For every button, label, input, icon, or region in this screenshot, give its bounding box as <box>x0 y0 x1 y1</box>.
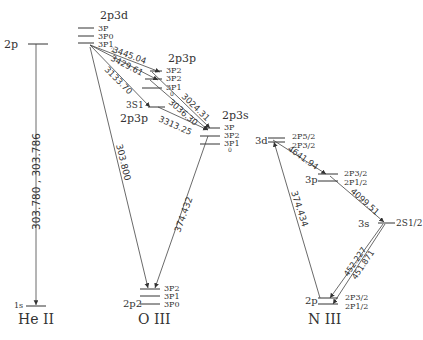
he-ii-group: 2p 303.780 , 303.786 1s He II <box>4 38 54 327</box>
n-3p-term: 2P3/2 <box>344 169 367 178</box>
o-303800-label: 303.800 <box>114 143 133 182</box>
grotrian-diagram: 2p 303.780 , 303.786 1s He II 2p3d 3P 3P… <box>0 0 423 340</box>
he-2p-label: 2p <box>4 38 18 51</box>
o-2p3s-term: 0 <box>228 146 232 153</box>
o-2p3p-upper-config: 2p3p <box>168 52 196 65</box>
he-ii-ion-label: He II <box>18 311 54 327</box>
n-2p-term: 2P1/2 <box>345 302 368 311</box>
n-2p-config: 2p <box>305 295 318 306</box>
o-2p3d-config: 2p3d <box>100 9 128 22</box>
he-ii-line-label: 303.780 , 303.786 <box>30 133 42 230</box>
n-2p-term: 2P3/2 <box>345 293 368 302</box>
o-iii-ion-label: O III <box>138 311 171 327</box>
n-3s-config: 3s <box>358 218 370 229</box>
n-4099-label: 4099.51 <box>349 186 382 217</box>
o-2p3p-mid-config: 2p3p <box>120 112 148 125</box>
o-ground-term: 3P0 <box>164 300 180 309</box>
o-2p3p-term: 3P2 <box>166 74 182 83</box>
n-3d-term: 2P5/2 <box>292 132 315 141</box>
o-ground-config: 2p2 <box>123 298 142 309</box>
o-iii-group: 2p3d 3P 3P0 3P1 2 2p3p 3P2 3P2 3P1 0 3S1… <box>78 9 249 327</box>
n-iii-group: 3d 2P5/2 2P3/2 3p 2P3/2 2P1/2 3s 2S1/2 2… <box>255 132 422 327</box>
he-1s-label: 1s <box>14 301 23 310</box>
n-3d-config: 3d <box>255 135 268 146</box>
n-3s-term: 2S1/2 <box>396 218 422 228</box>
o-2p3s-config: 2p3s <box>222 109 249 122</box>
n-3p-config: 3p <box>305 174 318 185</box>
n-374434-label: 374.434 <box>289 190 310 229</box>
n-iii-ion-label: N III <box>308 311 341 327</box>
o-374432-label: 374.432 <box>172 195 194 233</box>
o-3s1-term: 3S1 <box>126 100 144 110</box>
